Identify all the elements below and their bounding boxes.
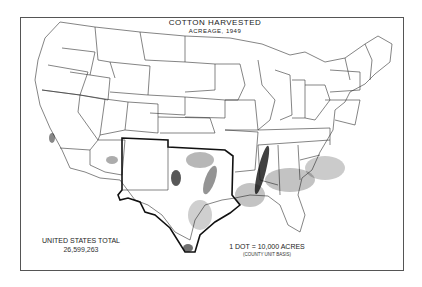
highlighted-region-outline [118, 138, 240, 252]
map-subtitle: ACREAGE, 1949 [150, 28, 280, 34]
cotton-dots [49, 133, 345, 252]
total-value: 26,599,263 [26, 246, 136, 253]
state-boundaries [35, 22, 392, 240]
legend-note: (COUNTY UNIT BASIS) [222, 252, 312, 257]
total-label: UNITED STATES TOTAL [26, 237, 136, 244]
us-outline [35, 22, 392, 240]
legend-label: 1 DOT = 10,000 ACRES [222, 243, 312, 250]
map-title: COTTON HARVESTED [150, 18, 280, 27]
